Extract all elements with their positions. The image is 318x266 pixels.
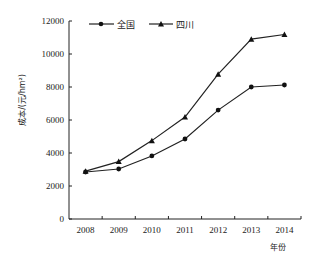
- x-tick-label: 2012: [209, 225, 227, 235]
- circle-marker-icon: [149, 154, 154, 159]
- circle-marker-icon: [249, 85, 254, 90]
- y-tick-label: 10000: [42, 49, 65, 59]
- y-axis-ticks: 020004000600080001000012000: [42, 16, 73, 224]
- x-tick-label: 2009: [110, 225, 129, 235]
- triangle-marker-icon: [116, 159, 122, 165]
- x-tick-label: 2010: [143, 225, 162, 235]
- circle-marker-icon: [282, 83, 287, 88]
- series-sichuan: [83, 32, 288, 174]
- y-tick-label: 4000: [46, 148, 65, 158]
- legend-item-national: 全国: [89, 19, 135, 30]
- circle-marker-icon: [99, 22, 104, 27]
- x-tick-label: 2014: [275, 225, 294, 235]
- series-layer: [83, 32, 288, 175]
- series-national: [83, 83, 287, 175]
- y-tick-label: 8000: [46, 82, 65, 92]
- circle-marker-icon: [216, 108, 221, 113]
- circle-marker-icon: [183, 137, 188, 142]
- x-tick-label: 2011: [176, 225, 194, 235]
- legend-item-sichuan: 四川: [149, 20, 194, 30]
- y-tick-label: 2000: [46, 181, 65, 191]
- y-tick-label: 12000: [42, 16, 65, 26]
- x-tick-label: 2013: [242, 225, 261, 235]
- x-axis-title: 年份: [270, 242, 286, 252]
- y-axis-title: 成本/(元/hm²): [17, 74, 27, 126]
- svg-text:全国: 全国: [117, 19, 135, 30]
- x-tick-label: 2008: [77, 225, 96, 235]
- circle-marker-icon: [116, 167, 121, 172]
- y-tick-label: 0: [60, 214, 65, 224]
- line-chart: 020004000600080001000012000 200820092010…: [0, 0, 318, 266]
- y-tick-label: 6000: [46, 115, 65, 125]
- svg-text:四川: 四川: [176, 20, 194, 30]
- legend: 全国 四川: [89, 19, 194, 30]
